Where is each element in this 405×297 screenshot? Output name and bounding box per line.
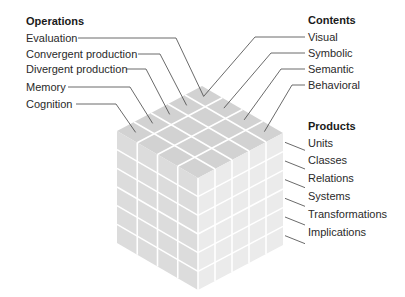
leader-systems [285, 198, 305, 206]
content-label-visual: Visual [308, 31, 338, 44]
products-heading: Products [308, 120, 356, 133]
operation-label-convergent-production: Convergent production [26, 48, 137, 61]
product-label-relations: Relations [308, 172, 354, 185]
product-label-transformations: Transformations [308, 208, 387, 221]
leader-classes [285, 161, 305, 169]
leader-implications [285, 236, 305, 244]
leader-transformations [285, 217, 305, 225]
product-label-systems: Systems [308, 190, 350, 203]
operation-label-cognition: Cognition [26, 98, 72, 111]
leader-convergent-production [138, 54, 187, 105]
operation-label-memory: Memory [26, 81, 66, 94]
content-label-symbolic: Symbolic [308, 47, 353, 60]
product-label-implications: Implications [308, 226, 366, 239]
operation-label-divergent-production: Divergent production [26, 63, 128, 76]
cube [117, 86, 283, 290]
operation-label-evaluation: Evaluation [26, 32, 77, 45]
product-label-units: Units [308, 137, 333, 150]
leader-visual [204, 37, 305, 96]
content-label-behavioral: Behavioral [308, 79, 360, 92]
contents-heading: Contents [308, 14, 356, 27]
leader-relations [285, 180, 305, 188]
leader-units [285, 142, 305, 150]
leader-semantic [244, 69, 305, 120]
product-label-classes: Classes [308, 154, 347, 167]
leader-symbolic [224, 53, 305, 108]
operations-heading: Operations [26, 15, 84, 28]
leader-memory [68, 87, 153, 123]
leader-behavioral [264, 85, 305, 132]
content-label-semantic: Semantic [308, 63, 354, 76]
